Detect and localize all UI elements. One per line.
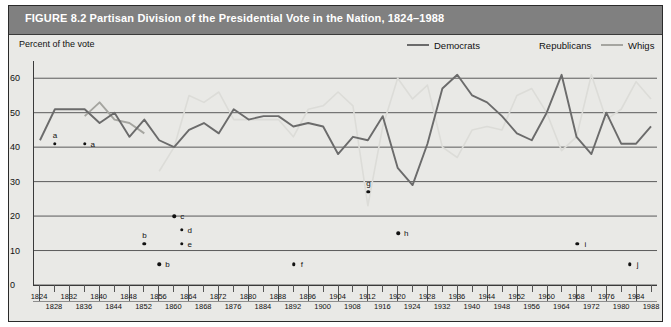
x-axis-tick-label: 1968 — [568, 292, 585, 301]
annotation-marker-j — [628, 263, 632, 267]
y-axis-tick-label: 50 — [10, 108, 30, 118]
annotation-label-h: h — [404, 229, 408, 238]
x-axis-tick — [143, 285, 144, 292]
x-axis-line — [33, 285, 657, 286]
x-axis-tick-label: 1904 — [329, 292, 346, 301]
x-axis-tick — [293, 285, 294, 292]
x-axis-tick-label: 1920 — [389, 292, 406, 301]
x-axis-tick-label: 1912 — [359, 292, 376, 301]
legend-swatch-icon — [601, 44, 623, 46]
legend-entry-republicans: Republicans — [512, 40, 591, 51]
x-axis-tick — [502, 285, 503, 292]
annotation-label-f: f — [301, 260, 303, 269]
legend-label: Republicans — [539, 40, 591, 51]
x-axis-tick — [203, 285, 204, 292]
x-axis-tick — [621, 285, 622, 292]
x-axis-tick-label: 1952 — [508, 292, 525, 301]
x-axis-tick-label: 1980 — [613, 302, 630, 311]
series-line-democrats — [40, 75, 651, 185]
x-axis-tick-label: 1884 — [255, 302, 272, 311]
legend-entry-whigs: Whigs — [601, 40, 654, 51]
y-axis-tick-label: 0 — [10, 280, 30, 290]
annotation-label-a: a — [91, 139, 95, 148]
x-axis-tick-label: 1984 — [628, 292, 645, 301]
annotation-label-a: a — [53, 130, 57, 139]
y-axis-tick-label: 10 — [10, 246, 30, 256]
x-axis-tick-label: 1960 — [538, 292, 555, 301]
figure-header-band: FIGURE 8.2 Partisan Division of the Pres… — [9, 6, 662, 35]
x-axis-tick — [532, 285, 533, 292]
x-axis-tick-label: 1976 — [598, 292, 615, 301]
x-axis-tick-label: 1932 — [434, 302, 451, 311]
x-axis-tick — [382, 285, 383, 292]
x-axis-tick-label: 1896 — [299, 292, 316, 301]
annotation-label-c: c — [180, 212, 184, 221]
x-axis-tick — [472, 285, 473, 292]
x-axis-tick — [651, 285, 652, 292]
annotation-label-b: b — [142, 230, 146, 239]
y-axis-tick-label: 40 — [10, 142, 30, 152]
x-axis-tick — [173, 285, 174, 292]
x-axis-tick-label: 1864 — [180, 292, 197, 301]
x-axis-tick — [352, 285, 353, 292]
figure-panel: FIGURE 8.2 Partisan Division of the Pres… — [8, 5, 663, 322]
legend-label: Whigs — [628, 40, 654, 51]
x-axis-tick — [323, 285, 324, 292]
x-axis-tick — [263, 285, 264, 292]
x-axis-tick — [412, 285, 413, 292]
annotation-label-j: j — [637, 260, 639, 269]
annotation-marker-a — [83, 142, 87, 146]
x-axis-tick-label: 1972 — [583, 302, 600, 311]
x-axis-tick-label: 1844 — [105, 302, 122, 311]
annotation-marker-g — [367, 190, 371, 194]
annotation-marker-a — [53, 142, 57, 146]
annotation-label-d: d — [188, 225, 192, 234]
x-axis-tick-label: 1836 — [75, 302, 92, 311]
chart-svg — [34, 61, 657, 285]
x-axis: 1824182818321836184018441848185218561860… — [33, 285, 657, 327]
x-axis-tick — [561, 285, 562, 292]
annotation-label-b: b — [165, 260, 169, 269]
legend-label: Democrats — [434, 40, 480, 51]
x-axis-tick-label: 1928 — [419, 292, 436, 301]
x-axis-tick-label: 1876 — [225, 302, 242, 311]
legend-swatch-icon — [407, 44, 429, 46]
annotation-label-e: e — [188, 239, 192, 248]
x-axis-tick-label: 1956 — [523, 302, 540, 311]
annotation-marker-d — [180, 228, 184, 232]
x-axis-tick-label: 1924 — [404, 302, 421, 311]
y-axis-title: Percent of the vote — [19, 39, 95, 49]
x-axis-tick-label: 1900 — [314, 302, 331, 311]
chart-legend: DemocratsRepublicansWhigs — [9, 34, 662, 60]
y-axis-tick-label: 30 — [10, 177, 30, 187]
legend-entry-democrats: Democrats — [407, 40, 480, 51]
x-axis-tick-label: 1880 — [240, 292, 257, 301]
x-axis-tick-label: 1828 — [46, 302, 63, 311]
x-axis-tick-label: 1860 — [165, 302, 182, 311]
x-axis-tick — [84, 285, 85, 292]
annotation-marker-e — [180, 242, 184, 246]
annotation-label-i: i — [584, 239, 586, 248]
x-axis-tick-label: 1856 — [150, 292, 167, 301]
x-axis-tick-label: 1832 — [61, 292, 78, 301]
x-axis-tick-label: 1964 — [553, 302, 570, 311]
x-axis-tick-label: 1892 — [284, 302, 301, 311]
x-axis-tick — [114, 285, 115, 292]
x-axis-tick — [442, 285, 443, 292]
annotation-marker-b — [158, 263, 162, 267]
x-axis-tick-label: 1948 — [493, 302, 510, 311]
x-axis-tick-label: 1872 — [210, 292, 227, 301]
annotation-marker-c — [173, 214, 177, 218]
x-axis-tick-label: 1936 — [449, 292, 466, 301]
legend-swatch-icon — [512, 44, 534, 46]
x-axis-tick-label: 1852 — [135, 302, 152, 311]
annotation-marker-f — [292, 263, 296, 267]
plot-area: 0102030405060aabbcdefghij — [33, 61, 657, 285]
series-line-republicans — [159, 75, 651, 206]
x-axis-tick — [54, 285, 55, 292]
x-axis-tick-label: 1940 — [464, 302, 481, 311]
x-axis-tick-label: 1840 — [90, 292, 107, 301]
x-axis-tick-label: 1908 — [344, 302, 361, 311]
x-axis-tick — [233, 285, 234, 292]
x-axis-tick-label: 1868 — [195, 302, 212, 311]
